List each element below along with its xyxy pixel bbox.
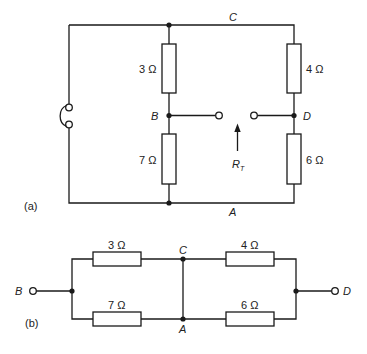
label-7-ohm: 7 Ω bbox=[139, 154, 156, 166]
wire-top bbox=[69, 25, 294, 44]
resistor-6-ohm bbox=[287, 134, 301, 184]
caption-b: (b) bbox=[25, 317, 38, 329]
terminal-d-open bbox=[251, 112, 258, 119]
label-4-ohm: 4 Ω bbox=[306, 63, 323, 75]
resistor-3-ohm bbox=[162, 44, 176, 93]
junction-d-merge bbox=[293, 288, 298, 293]
junction-b bbox=[166, 113, 171, 118]
caption-a: (a) bbox=[24, 200, 37, 212]
node-label-b: B bbox=[151, 110, 158, 122]
wire-right-bracket bbox=[274, 259, 296, 319]
node-label-d: D bbox=[303, 110, 311, 122]
label-3-ohm: 3 Ω bbox=[139, 63, 156, 75]
diagram-b: 3 Ω 7 Ω 4 Ω 6 Ω B C A D (b) bbox=[15, 239, 351, 335]
node-label-d-b: D bbox=[343, 285, 351, 297]
resistor-3-ohm-b bbox=[93, 252, 141, 266]
junction-a bbox=[166, 200, 171, 205]
source-terminal-bottom bbox=[66, 121, 73, 128]
node-label-c: C bbox=[229, 11, 237, 23]
node-label-c-b: C bbox=[179, 244, 187, 256]
terminal-d bbox=[332, 288, 339, 295]
rt-arrow-icon bbox=[234, 124, 240, 152]
junction-d bbox=[291, 113, 296, 118]
wire-left-lower bbox=[69, 128, 294, 203]
wire-left-bracket bbox=[72, 259, 93, 319]
source-terminal-top bbox=[66, 104, 73, 111]
terminal-b-open bbox=[216, 112, 223, 119]
rt-label: R T bbox=[232, 158, 245, 172]
junction-c-b bbox=[180, 256, 185, 261]
circuit-figure: 3 Ω 7 Ω 4 Ω 6 Ω C B D A R T (a) bbox=[0, 0, 367, 354]
resistor-4-ohm-b bbox=[226, 252, 274, 266]
junction-a-b bbox=[180, 316, 185, 321]
diagram-a: 3 Ω 7 Ω 4 Ω 6 Ω C B D A R T (a) bbox=[24, 11, 323, 218]
source-terminals bbox=[60, 104, 72, 128]
label-3-ohm-b: 3 Ω bbox=[108, 239, 125, 251]
resistor-7-ohm-b bbox=[93, 312, 141, 326]
node-label-b-b: B bbox=[15, 285, 22, 297]
junction-b-split bbox=[69, 288, 74, 293]
resistor-6-ohm-b bbox=[226, 312, 274, 326]
rt-label-subscript: T bbox=[240, 165, 245, 172]
terminal-b bbox=[30, 288, 37, 295]
label-6-ohm: 6 Ω bbox=[306, 154, 323, 166]
label-7-ohm-b: 7 Ω bbox=[108, 299, 125, 311]
resistor-7-ohm bbox=[162, 134, 176, 184]
rt-label-main: R bbox=[232, 158, 240, 170]
label-6-ohm-b: 6 Ω bbox=[241, 299, 258, 311]
junction-c bbox=[166, 22, 171, 27]
resistor-4-ohm bbox=[287, 44, 301, 93]
node-label-a-b: A bbox=[178, 323, 186, 335]
label-4-ohm-b: 4 Ω bbox=[241, 239, 258, 251]
node-label-a: A bbox=[228, 206, 236, 218]
